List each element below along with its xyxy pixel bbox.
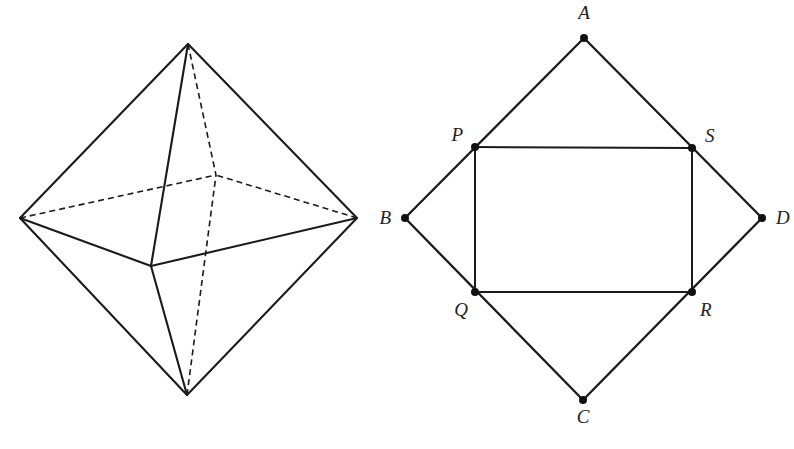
rhombus-edges [405,38,762,400]
vertex-dot-p [471,143,479,151]
vertex-label-s: S [705,125,715,146]
octahedron-dashed-edges [20,44,357,395]
vertex-label-c: C [577,406,590,427]
rectangle-edges [475,147,692,292]
octahedron-solid-edges [20,44,357,395]
vertex-dot-s [688,144,696,152]
rhombus-edge-c-d [583,218,762,400]
vertex-dot-b [401,214,409,222]
vertex-dot-c [579,396,587,404]
rhombus-vertex-labels: A B C D P S Q R [379,2,790,427]
figure-root: A B C D P S Q R [0,0,794,449]
vertex-dot-q [471,288,479,296]
vertex-label-a: A [576,2,590,23]
vertex-dot-a [580,34,588,42]
vertex-label-q: Q [454,299,468,320]
rhombus-edge-b-c [405,218,583,400]
octahedron-edge-left-front [20,218,151,266]
vertex-dot-d [758,214,766,222]
rhombus-edge-a-b [405,38,584,218]
rhombus-vertex-dots [401,34,766,404]
octahedron-edge-bottom-right [187,218,357,395]
octahedron-dashed-edge-left-back [20,175,216,218]
geometry-figure: A B C D P S Q R [0,0,794,449]
octahedron-group [20,44,357,395]
rectangle-edge-p-s [475,147,692,148]
vertex-dot-r [688,288,696,296]
vertex-label-r: R [699,299,712,320]
vertex-label-d: D [775,207,790,228]
octahedron-dashed-edge-bottom-back [187,175,216,395]
octahedron-edge-right-front [151,218,357,266]
rhombus-edge-d-a [584,38,762,218]
vertex-label-p: P [450,124,463,145]
vertex-label-b: B [379,207,391,228]
octahedron-dashed-edge-top-back [188,44,216,175]
rhombus-group: A B C D P S Q R [379,2,790,427]
